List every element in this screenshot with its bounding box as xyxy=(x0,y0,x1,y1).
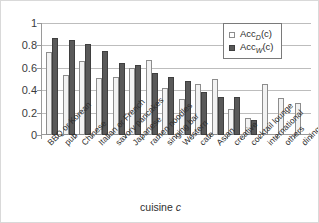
bar-accw xyxy=(52,38,58,135)
legend-item: AccW(c) xyxy=(229,41,274,54)
bar-chart-figure: 00.20.40.60.81 BBQ or KoreanpubChineseIt… xyxy=(0,0,319,223)
legend-swatch-accw xyxy=(229,45,235,51)
bar-accw xyxy=(85,44,91,135)
bar-group xyxy=(44,23,61,135)
bar-accw xyxy=(234,97,240,135)
y-axis-tick-marks xyxy=(1,23,41,135)
bar-accw xyxy=(218,97,224,135)
legend-swatch-accd xyxy=(229,32,235,38)
x-axis-labels: BBQ or KoreanpubChineseItalian or French… xyxy=(41,139,311,199)
x-axis-title-text: cuisine xyxy=(140,201,176,213)
legend-item: AccD(c) xyxy=(229,28,274,41)
x-axis-title-variable: c xyxy=(176,201,181,213)
chart-legend: AccD(c)AccW(c) xyxy=(223,23,282,59)
legend-label: AccW(c) xyxy=(240,41,274,54)
x-axis-title: cuisine c xyxy=(1,201,319,213)
legend-label: AccD(c) xyxy=(240,28,272,41)
